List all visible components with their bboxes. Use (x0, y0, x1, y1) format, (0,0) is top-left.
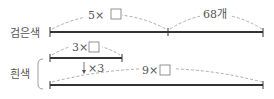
black-label: 검은색 (10, 27, 40, 40)
arrow-head (82, 70, 86, 74)
white-label: 흰색 (10, 68, 30, 81)
tape-diagram: 검은색 5× 68개 3× ×3 흰색 9× (0, 0, 274, 99)
multiplier-label: ×3 (88, 62, 104, 75)
black-segment1-label: 5× (88, 9, 104, 22)
black-segment2-label: 68개 (203, 8, 227, 21)
white-short-label: 3× (72, 41, 88, 54)
white-long-label: 9× (142, 64, 158, 77)
bracket (38, 59, 43, 89)
